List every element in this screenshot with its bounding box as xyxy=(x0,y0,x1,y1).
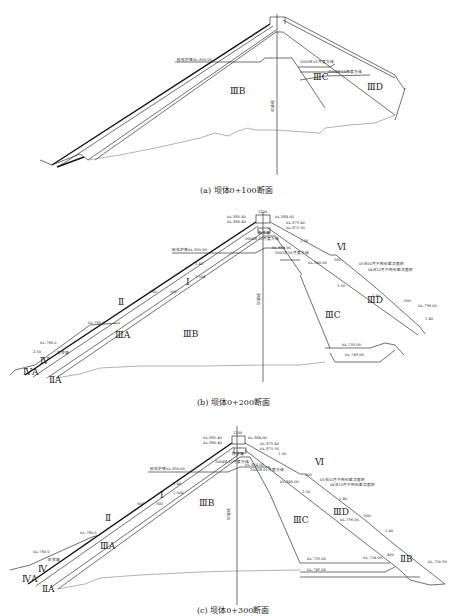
rockfill-2004-12-label-b: 04年12月干砌石截流面积 xyxy=(368,267,413,272)
crest-width-label-c: 1200 xyxy=(233,431,243,435)
zone-label-IIID-b: ⅢD xyxy=(367,295,383,305)
el-880-label-c: EL.880.40 xyxy=(203,441,222,445)
axis-label-a: 坝轴线 xyxy=(270,100,275,112)
zone-label-II-b: Ⅱ xyxy=(118,297,124,307)
berm-500-label-c2: 500 xyxy=(364,514,372,518)
el-879-label-b: EL.879.40 xyxy=(286,221,305,225)
line-2004-12-label-b: 2004年12月度方线 xyxy=(245,236,279,241)
zone-label-IIID-c: ⅢD xyxy=(333,507,349,517)
el-879-label-c: EL.879.40 xyxy=(260,442,279,446)
slope-150-label-c: 1.50 xyxy=(278,452,287,456)
zone-label-IIA-b: ⅡA xyxy=(49,375,62,385)
section-b: EL.885.40 EL.880.40 1200 EL.884.00 EL.87… xyxy=(10,210,437,407)
slope-150-label-b: 1.50 xyxy=(300,239,309,243)
berm-500-label-b2: 500 xyxy=(404,299,412,303)
rockfill-2005-01-label-b: 05年01月干砌石截流面积 xyxy=(359,261,404,266)
zone-label-IV-b: Ⅳ xyxy=(40,356,50,366)
el-854-label-b: EL.854.00 xyxy=(272,246,291,250)
slope-protection-label-b: 砂浆护坡EL.850.00 xyxy=(172,247,207,252)
zone-label-VI-b: Ⅵ xyxy=(336,242,346,252)
line-2005-01-label-b: 2005年01月度方线 xyxy=(275,250,309,255)
foundation-line-c xyxy=(58,570,300,589)
zone-label-IIIB-a: ⅢB xyxy=(230,86,246,96)
caption-c: (c) 坝体0+300断面 xyxy=(197,605,269,615)
line-2004-12-label-c: 2004年12月度方线 xyxy=(215,459,249,464)
berm-500-label-b3: 500 xyxy=(150,290,158,294)
el-759-label-b: EL.759.00 xyxy=(342,343,361,347)
el-884-label-b: EL.884.00 xyxy=(275,215,294,219)
el-796-label-c: EL.796.00 xyxy=(340,518,359,522)
cutoff-label-b2: 防渗墙 xyxy=(57,350,69,355)
el-749-label-c: EL.749.00 xyxy=(307,568,326,572)
zone-label-IIA-c: ⅡA xyxy=(42,584,55,594)
caption-b: (b) 坝体0+200断面 xyxy=(197,397,270,407)
el-780-label-c: EL.780.0 xyxy=(80,531,97,535)
el-854-label-c: EL.854.00 xyxy=(245,463,264,467)
caption-a: (a) 坝体0+100断面 xyxy=(200,185,273,195)
zone-label-IIIC-c: ⅢC xyxy=(293,515,309,525)
el-885-label-c: EL.885.40 xyxy=(203,436,222,440)
el-780-label-b: EL.780.0 xyxy=(88,321,105,325)
dam-cross-section-drawing: 砂浆护坡EL.850.00 2005年01月度方线 2004年12月度方线 坝轴… xyxy=(0,0,457,616)
el-884-label-c: EL.884.00 xyxy=(248,436,267,440)
section-c: EL.885.40 EL.880.40 1200 EL.884.00 EL.87… xyxy=(10,426,447,615)
zone-label-IV-c: Ⅳ xyxy=(38,564,48,574)
berm-500-label-c3: 500 xyxy=(137,502,145,506)
slope-140-label-c2: 1.40 xyxy=(385,529,394,533)
el-840-label-c: EL.840.00 xyxy=(280,480,299,484)
berm-500-label-c4: 500 xyxy=(156,502,164,506)
zone-label-IIID-a: ⅢD xyxy=(367,82,383,92)
el-760-label-c: EL.760.0 xyxy=(33,550,50,554)
el-840-label-b: EL.840.00 xyxy=(308,261,327,265)
slope-150-label-b2: 1.50 xyxy=(337,284,346,288)
line-2004-12-label-a: 2004年12月度方线 xyxy=(328,69,362,74)
berm-500-label-b4: 500 xyxy=(170,290,178,294)
section-a: 砂浆护坡EL.850.00 2005年01月度方线 2004年12月度方线 坝轴… xyxy=(40,14,405,195)
slope-140-label-c3: 1.40 xyxy=(173,482,182,486)
cutoff-label-b: 防渗墙 xyxy=(258,230,270,235)
zone-label-II-c: Ⅱ xyxy=(105,513,111,523)
rockfill-2004-12-label-c: 04年12月干砌石截流面积 xyxy=(330,482,375,487)
zone-label-IIIB-c: ⅢB xyxy=(199,498,215,508)
el-885-label-b: EL.885.40 xyxy=(227,215,246,219)
el-796-label-b: EL.796.00 xyxy=(418,304,437,308)
crest-width-label-b: 1200 xyxy=(258,210,268,214)
cutoff-label-c: 防渗墙 xyxy=(232,451,244,456)
el-880-label-b: EL.880.40 xyxy=(227,220,246,224)
el-875-label-c: EL.875.50 xyxy=(260,447,279,451)
zone-label-IIIA-c: ⅢA xyxy=(100,541,116,551)
el-875-label-b: EL.875.50 xyxy=(286,226,305,230)
slope-protection-label-a: 砂浆护坡EL.850.00 xyxy=(177,57,212,62)
berm-500-label-c: 500 xyxy=(305,473,313,477)
downstream-face-b xyxy=(270,222,425,334)
slope-140-label-b3: 1.40 xyxy=(195,262,204,266)
berm-500-label-b: 500 xyxy=(334,258,342,262)
zone-label-I-b: Ⅰ xyxy=(186,277,190,287)
zone-label-IIIC-a: ⅢC xyxy=(313,72,329,82)
line-2005-01-label-a: 2005年01月度方线 xyxy=(300,59,334,64)
slope-140-label-b2: 1.40 xyxy=(425,317,434,321)
slope-protection-label-c: 砂浆护坡EL.850.00 xyxy=(150,466,185,471)
zone-label-IVA-b: ⅣA xyxy=(23,367,39,377)
zone-label-IIIC-b: ⅢC xyxy=(325,310,341,320)
zone-label-VI-c: Ⅵ xyxy=(314,457,324,467)
slope-140-label-c: 1.40 xyxy=(339,497,348,501)
berm-400-label-c: 400 xyxy=(387,553,395,557)
axis-label-b: 坝轴线 xyxy=(256,293,261,305)
el-750-label-c: EL.750.90 xyxy=(428,560,447,564)
foundation-line-b xyxy=(56,362,325,378)
zone-label-IVA-c: ⅣA xyxy=(22,574,38,584)
cutoff-label-c2: 防渗墙 xyxy=(48,557,60,562)
zone-label-IIIA-b: ⅢA xyxy=(115,330,131,340)
line-2005-01-label-c: 2005年01月度方线 xyxy=(250,467,284,472)
slope-1504-label-c: 1.504 xyxy=(173,491,184,495)
rockfill-2005-01-label-c: 05年01月干砌石截流面积 xyxy=(320,477,365,482)
slope-150-label-c2: 1.50 xyxy=(302,490,311,494)
axis-label-c: 坝轴线 xyxy=(226,508,231,520)
zone-label-IIIB-b: ⅢB xyxy=(183,329,199,339)
el-749-label-b: EL.749.00 xyxy=(345,353,364,357)
downstream-face-a xyxy=(285,17,405,90)
el-759-label-c: EL.759.00 xyxy=(307,557,326,561)
zone-label-I-c: Ⅰ xyxy=(160,490,164,500)
upstream-face-c xyxy=(28,443,232,584)
